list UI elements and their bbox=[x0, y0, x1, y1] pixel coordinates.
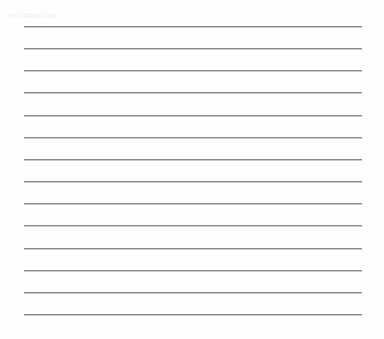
bleed-through-text: For Official Use bbox=[8, 12, 56, 19]
ruled-line bbox=[24, 203, 362, 204]
ruled-line bbox=[24, 314, 362, 315]
ruled-line bbox=[24, 48, 362, 49]
ruled-line bbox=[24, 248, 362, 249]
ruled-line bbox=[24, 137, 362, 138]
ruled-line bbox=[24, 225, 362, 226]
ruled-line bbox=[24, 92, 362, 93]
ruled-line bbox=[24, 159, 362, 160]
lined-page: For Official Use bbox=[0, 0, 384, 339]
ruled-line bbox=[24, 70, 362, 71]
ruled-line bbox=[24, 292, 362, 293]
ruled-line bbox=[24, 181, 362, 182]
ruled-line bbox=[24, 26, 362, 27]
ruled-line bbox=[24, 115, 362, 116]
ruled-line bbox=[24, 270, 362, 271]
